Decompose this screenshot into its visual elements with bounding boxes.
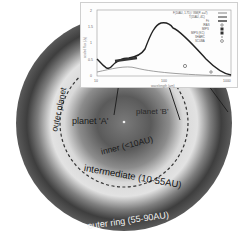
y-axis-label: scaled flux (Jy): [83, 37, 87, 58]
legend-item: T(55AU, 4C): [189, 15, 205, 19]
debris-disk-figure: planet 'A' planet 'B' inner (<10AU) inte…: [0, 0, 249, 251]
planet-a-label: planet 'A': [72, 116, 109, 126]
ytick: 2: [90, 9, 92, 13]
xtick: 10: [94, 79, 98, 83]
data-point-marker: [210, 71, 212, 73]
legend-swatches: [218, 13, 227, 42]
legend-item: SCUBA: [195, 39, 205, 43]
ytick: 0: [90, 74, 92, 78]
plot-frame: [97, 10, 231, 76]
x-axis-label: wavelength (µm): [151, 84, 175, 88]
sed-chart: 0 0.5 1 1.5 2 10 100 1000 wavelength (µm…: [81, 3, 239, 89]
series-inner-component: [97, 67, 231, 76]
legend: F(10AU, 1.75) / ISM(P. a=7) T(55AU, 4C) …: [173, 11, 210, 43]
planet-b-label: planet 'B': [136, 107, 169, 116]
xtick: 1000: [223, 79, 231, 83]
ytick: 1: [90, 41, 92, 45]
central-star: [123, 121, 126, 124]
series-spectrum: [115, 58, 137, 61]
ytick: 0.5: [88, 58, 93, 62]
ytick: 1.5: [88, 25, 93, 29]
xtick: 100: [161, 79, 167, 83]
data-point-marker: [183, 64, 186, 67]
series-total-fit: [97, 23, 231, 75]
sed-chart-inset: 0 0.5 1 1.5 2 10 100 1000 wavelength (µm…: [80, 2, 238, 88]
